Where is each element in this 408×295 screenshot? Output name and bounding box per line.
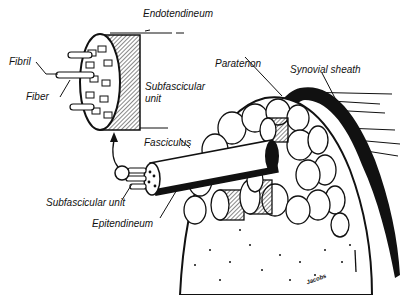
- label-endotendineum: Endotendineum: [143, 8, 213, 19]
- label-paratenon: Paratenon: [215, 58, 261, 69]
- tendon-body: [180, 87, 400, 295]
- label-fiber: Fiber: [26, 91, 49, 102]
- tendon-structure-diagram: Endotendineum Fibril Fiber Subfascicular…: [0, 0, 408, 295]
- label-epitendineum: Epitendineum: [92, 218, 153, 229]
- label-subfascicular-unit-top-line2: unit: [145, 93, 161, 104]
- label-synovial-sheath: Synovial sheath: [290, 64, 361, 75]
- label-subfascicular-unit-top-line1: Subfascicular: [145, 81, 205, 92]
- label-subfascicular-unit-bottom: Subfascicular unit: [46, 197, 125, 208]
- diagram-artwork: [0, 0, 408, 295]
- label-fasciculus: Fasciculus: [144, 137, 191, 148]
- label-fibril: Fibril: [9, 56, 31, 67]
